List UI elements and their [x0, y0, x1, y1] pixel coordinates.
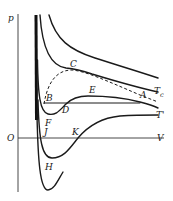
point-D-label: D — [61, 105, 69, 115]
origin-label: O — [7, 133, 15, 143]
point-B-label: B — [45, 93, 53, 103]
point-K-label: K — [71, 127, 80, 137]
t-prime-label: T' — [156, 110, 164, 120]
point-H-label: H — [44, 162, 53, 172]
pv-isotherm-diagram: p V O Tc T' C B A E D F J K H — [0, 0, 173, 201]
point-C-label: C — [70, 59, 77, 69]
isotherm-critical — [40, 15, 158, 92]
point-E-label: E — [88, 85, 96, 95]
isotherm-T-prime — [38, 100, 158, 158]
liquid-branch-thick — [36, 15, 37, 120]
point-J-label: J — [42, 127, 49, 137]
tc-label: Tc — [154, 86, 164, 99]
point-A-label: A — [139, 90, 147, 100]
p-axis-label: p — [8, 13, 14, 23]
tc-label-sub: c — [160, 91, 164, 99]
